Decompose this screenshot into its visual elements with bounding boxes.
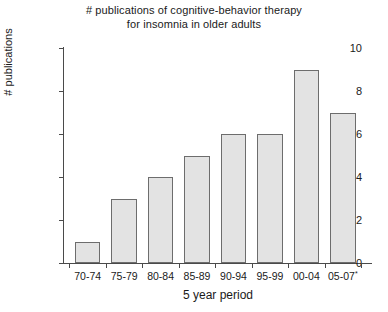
x-axis-tick-label: 90-94 [220,270,247,282]
bar [75,242,101,264]
x-axis-tick-label: 80-84 [147,270,174,282]
y-axis-tick [59,91,64,92]
x-axis-tick [361,263,362,268]
chart-title-line-2: for insomnia in older adults [0,17,388,31]
x-axis-tick-label: 75-79 [111,270,138,282]
y-axis-tick-label: 8 [342,85,362,97]
x-axis-label: 5 year period [64,288,372,302]
bar-chart: # publications of cognitive-behavior the… [0,0,388,312]
x-axis-tick [325,263,326,268]
y-axis-tick-label: 10 [342,42,362,54]
x-axis-line [63,263,372,264]
y-axis-label: # publications [2,2,14,122]
x-axis-tick-label: 85-89 [184,270,211,282]
bar [111,199,137,264]
bar [184,156,210,264]
x-axis-tick-label: 70-74 [74,270,101,282]
x-axis-tick [69,263,70,268]
x-axis-tick-label: 95-99 [257,270,284,282]
y-axis-tick [59,263,64,264]
y-axis-tick [59,48,64,49]
x-axis-tick-label: 00-04 [293,270,320,282]
bar [294,70,320,264]
footnote-marker: * [355,270,358,277]
bar [148,177,174,263]
plot-area: 0246810 [64,48,372,263]
chart-title: # publications of cognitive-behavior the… [0,3,388,31]
y-axis-tick [59,220,64,221]
x-axis-tick [142,263,143,268]
chart-title-line-1: # publications of cognitive-behavior the… [0,3,388,17]
x-axis-tick [179,263,180,268]
x-axis-tick [252,263,253,268]
x-axis-tick [215,263,216,268]
x-axis-tick [288,263,289,268]
bar [257,134,283,263]
x-axis-tick [106,263,107,268]
bar [330,113,356,264]
x-axis-tick-label: 05-07* [328,270,358,282]
bar [221,134,247,263]
y-axis-tick [59,134,64,135]
y-axis-tick [59,177,64,178]
